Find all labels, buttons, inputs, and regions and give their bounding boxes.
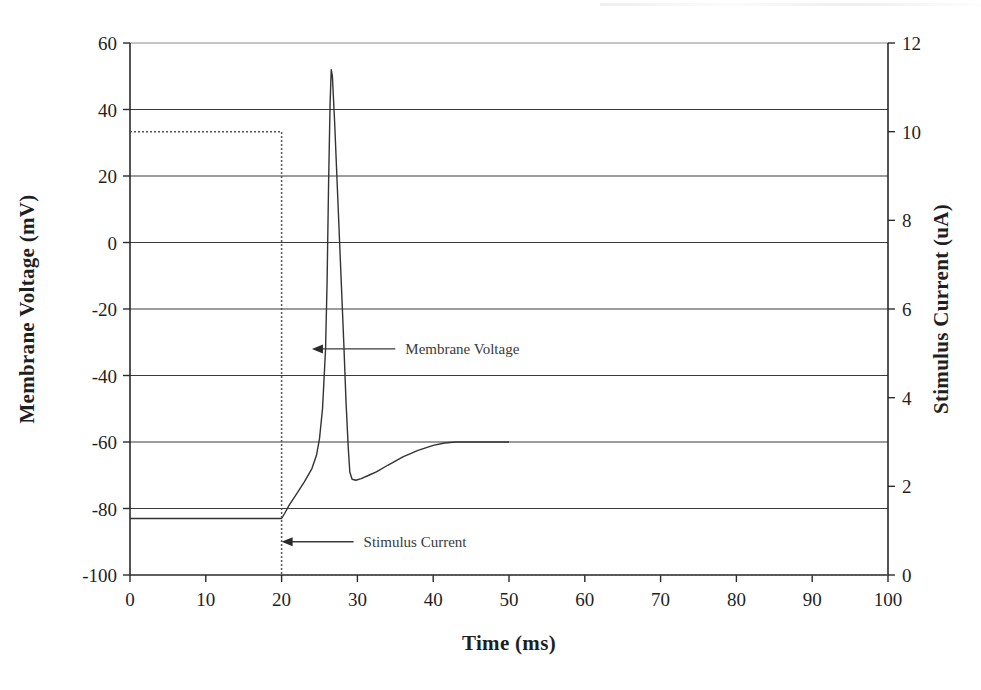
annotation-arrow-head [282, 537, 293, 546]
right-axis-title: Stimulus Current (uA) [929, 204, 953, 414]
left-axis-tick-label: -80 [92, 499, 117, 520]
left-axis-tick-label: -100 [82, 565, 117, 586]
left-axis-tick-label: 0 [108, 233, 118, 254]
left-axis-title: Membrane Voltage (mV) [15, 194, 39, 423]
x-axis-tick-label: 50 [500, 589, 519, 610]
left-axis-tick-label: -60 [92, 432, 117, 453]
right-axis-tick-label: 10 [902, 122, 921, 143]
x-axis-tick-label: 100 [874, 589, 903, 610]
left-axis-tick-label: 60 [98, 33, 117, 54]
annotation-label: Stimulus Current [364, 534, 468, 550]
scan-artifact [600, 3, 981, 6]
left-axis-tick-label: 20 [98, 166, 117, 187]
right-axis-tick-label: 0 [902, 565, 912, 586]
left-axis-tick-label: -20 [92, 299, 117, 320]
x-axis-tick-label: 20 [272, 589, 291, 610]
action-potential-chart: -100-80-60-40-200204060Membrane Voltage … [0, 0, 981, 690]
right-axis-tick-label: 6 [902, 299, 912, 320]
chart-figure: -100-80-60-40-200204060Membrane Voltage … [0, 0, 981, 690]
left-axis-tick-label: -40 [92, 366, 117, 387]
right-axis-tick-label: 12 [902, 33, 921, 54]
annotation-label: Membrane Voltage [405, 341, 519, 357]
x-axis-tick-label: 60 [575, 589, 594, 610]
x-axis-tick-label: 10 [196, 589, 215, 610]
left-axis-tick-label: 40 [98, 100, 117, 121]
x-axis-title: Time (ms) [462, 631, 556, 655]
annotation-arrow-head [312, 344, 323, 353]
right-axis-tick-label: 8 [902, 210, 912, 231]
right-axis-tick-label: 2 [902, 476, 912, 497]
x-axis-tick-label: 40 [424, 589, 443, 610]
x-axis-tick-label: 70 [651, 589, 670, 610]
right-axis-tick-label: 4 [902, 388, 912, 409]
x-axis-tick-label: 30 [348, 589, 367, 610]
x-axis-tick-label: 90 [803, 589, 822, 610]
x-axis-tick-label: 80 [727, 589, 746, 610]
x-axis-tick-label: 0 [125, 589, 135, 610]
series-line-membrane-voltage [130, 70, 509, 519]
